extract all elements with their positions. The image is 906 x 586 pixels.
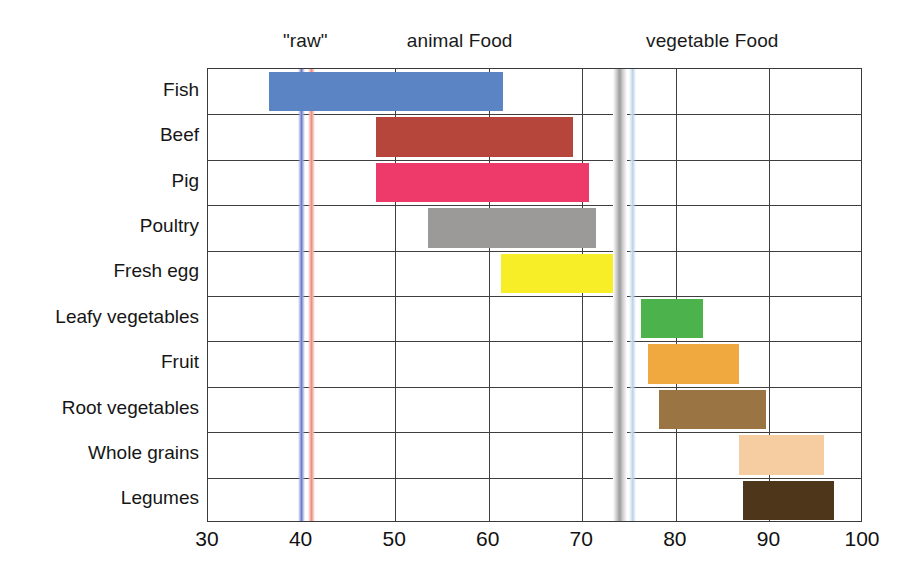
gridline-horizontal (208, 341, 861, 342)
band-heading-raw: "raw" (283, 30, 328, 52)
x-tick-label: 30 (195, 527, 218, 551)
category-label: Leafy vegetables (3, 306, 199, 328)
bar-poultry[interactable] (428, 208, 596, 247)
red-marker (308, 69, 315, 521)
x-tick-label: 40 (289, 527, 312, 551)
category-label: Legumes (3, 487, 199, 509)
x-tick-label: 80 (663, 527, 686, 551)
gridline-vertical (582, 69, 583, 521)
category-label: Root vegetables (3, 397, 199, 419)
bar-pig[interactable] (376, 163, 588, 202)
bar-fish[interactable] (269, 72, 503, 111)
category-label: Poultry (3, 215, 199, 237)
gridline-horizontal (208, 160, 861, 161)
bar-whole-grains[interactable] (739, 435, 824, 474)
x-tick-label: 100 (844, 527, 879, 551)
gridline-horizontal (208, 478, 861, 479)
gray-marker (613, 69, 627, 521)
category-label: Fresh egg (3, 260, 199, 282)
category-label: Whole grains (3, 442, 199, 464)
category-label: Pig (3, 170, 199, 192)
value-axis: 30405060708090100 (0, 527, 906, 567)
category-axis: FishBeefPigPoultryFresh eggLeafy vegetab… (0, 68, 199, 522)
band-heading-vegetable-food: vegetable Food (646, 30, 778, 52)
bar-legumes[interactable] (743, 481, 834, 520)
x-tick-label: 60 (476, 527, 499, 551)
blue-marker (298, 69, 305, 521)
plot-area (207, 68, 862, 522)
band-heading-animal-food: animal Food (407, 30, 513, 52)
category-label: Fruit (3, 351, 199, 373)
gridline-horizontal (208, 114, 861, 115)
category-label: Fish (3, 79, 199, 101)
gridline-horizontal (208, 251, 861, 252)
x-tick-label: 70 (570, 527, 593, 551)
x-tick-label: 50 (382, 527, 405, 551)
bar-fruit[interactable] (648, 344, 740, 383)
x-tick-label: 90 (757, 527, 780, 551)
gridline-horizontal (208, 296, 861, 297)
bar-fresh-egg[interactable] (501, 254, 613, 293)
gridline-horizontal (208, 432, 861, 433)
light-blue-marker (629, 69, 636, 521)
range-bar-chart: "raw" animal Food vegetable Food FishBee… (0, 0, 906, 586)
gridline-vertical (676, 69, 677, 521)
bar-beef[interactable] (376, 117, 573, 156)
bar-root-vegetables[interactable] (659, 390, 766, 429)
bar-leafy-vegetables[interactable] (641, 299, 703, 338)
gridline-horizontal (208, 205, 861, 206)
gridline-horizontal (208, 387, 861, 388)
category-label: Beef (3, 124, 199, 146)
